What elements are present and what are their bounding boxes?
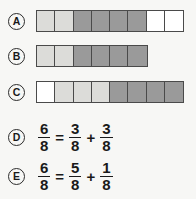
numerator: 3: [69, 121, 81, 136]
operator-symbol: +: [86, 129, 95, 146]
bar-cell: [74, 82, 92, 102]
option-row-e[interactable]: E 6 8 = 5 8 + 1 8: [0, 160, 196, 192]
fraction-term2: 3 8: [100, 121, 112, 153]
option-row-c[interactable]: C: [0, 81, 196, 103]
fraction-term1: 3 8: [69, 121, 81, 153]
bar-cell: [37, 82, 55, 102]
denominator: 8: [38, 137, 50, 153]
bar-cell: [128, 46, 146, 66]
numerator: 6: [38, 121, 50, 136]
numerator: 6: [38, 160, 50, 175]
bar-cell: [37, 46, 55, 66]
equation-d: 6 8 = 3 8 + 3 8: [37, 121, 114, 153]
option-letter-a: A: [8, 13, 25, 30]
fraction-term1: 5 8: [69, 160, 81, 192]
fraction-left: 6 8: [38, 160, 50, 192]
option-row-b[interactable]: B: [0, 45, 196, 67]
bar-cell: [110, 11, 128, 31]
bar-cell: [74, 11, 92, 31]
bar-cell: [110, 46, 128, 66]
equation-e: 6 8 = 5 8 + 1 8: [37, 160, 114, 192]
option-letter-d: D: [8, 129, 25, 146]
bar-cell: [110, 82, 128, 102]
bar-cell: [55, 11, 73, 31]
bar-cell: [37, 11, 55, 31]
option-letter-b: B: [8, 48, 25, 65]
numerator: 1: [100, 160, 112, 175]
operator-symbol: +: [86, 168, 95, 185]
denominator: 8: [100, 137, 112, 153]
fraction-bar-a: [36, 10, 184, 32]
bar-cell: [165, 11, 183, 31]
relation-symbol: =: [55, 129, 64, 146]
bar-cell: [92, 11, 110, 31]
option-letter-e: E: [8, 168, 25, 185]
fraction-bar-b: [36, 45, 148, 67]
fraction-bar-c: [36, 81, 184, 103]
fraction-left: 6 8: [38, 121, 50, 153]
bar-cell: [74, 46, 92, 66]
denominator: 8: [100, 176, 112, 192]
bar-cell: [55, 46, 73, 66]
bar-cell: [92, 46, 110, 66]
denominator: 8: [38, 176, 50, 192]
denominator: 8: [69, 176, 81, 192]
denominator: 8: [69, 137, 81, 153]
bar-cell: [128, 11, 146, 31]
bar-cell: [147, 82, 165, 102]
option-row-d[interactable]: D 6 8 = 3 8 + 3 8: [0, 121, 196, 153]
bar-cell: [165, 82, 183, 102]
fraction-term2: 1 8: [100, 160, 112, 192]
bar-cell: [128, 82, 146, 102]
answer-options-list: A B C: [0, 0, 196, 199]
option-row-a[interactable]: A: [0, 10, 196, 32]
option-letter-c: C: [8, 84, 25, 101]
numerator: 3: [100, 121, 112, 136]
bar-cell: [147, 11, 165, 31]
bar-cell: [92, 82, 110, 102]
bar-cell: [55, 82, 73, 102]
relation-symbol: =: [55, 168, 64, 185]
numerator: 5: [69, 160, 81, 175]
